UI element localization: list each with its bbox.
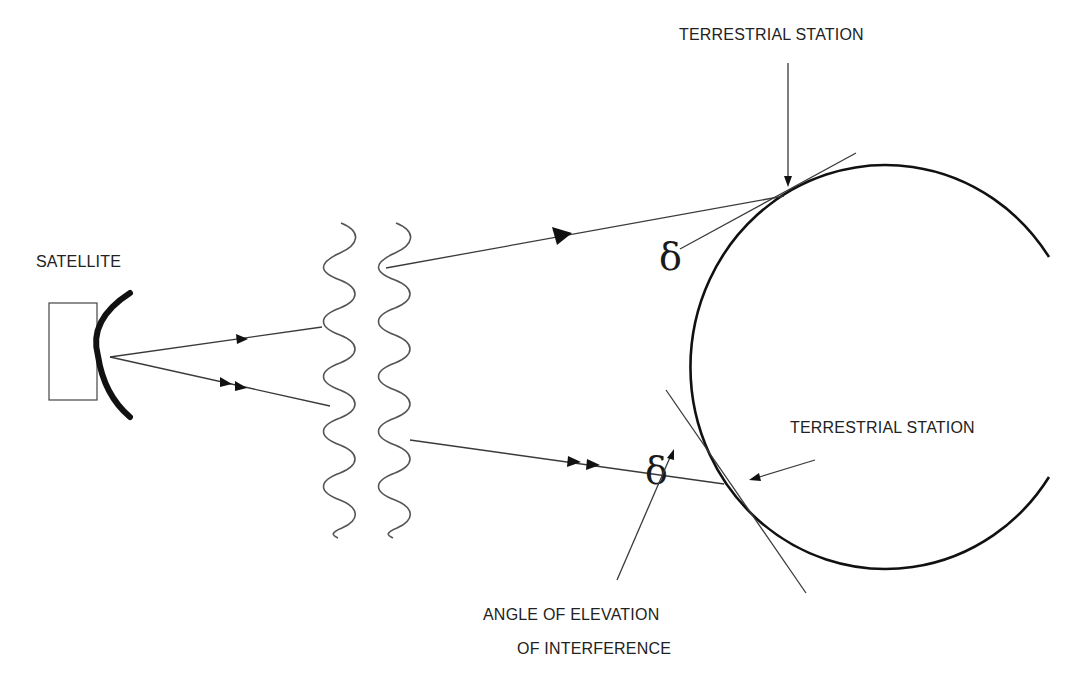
ray-arrow-double-icon	[567, 456, 581, 467]
ray-arrow-double-icon	[586, 459, 600, 470]
interference-waves	[324, 223, 411, 538]
beam-arrow-double-icon	[220, 377, 232, 387]
beam-arrow-single-icon	[236, 334, 248, 344]
elevation-label-line1: ANGLE OF ELEVATION	[483, 606, 659, 623]
interference-diagram: SATELLITE TERRESTRIAL STATION δ	[0, 0, 1092, 693]
top-station-pointer	[784, 63, 792, 187]
elevation-label-line2: OF INTERFERENCE	[517, 640, 671, 657]
bottom-station-label: TERRESTRIAL STATION	[790, 419, 975, 436]
angle-delta-top: δ	[659, 235, 682, 279]
upper-beam	[110, 327, 322, 357]
wave-left	[324, 223, 356, 538]
ray-arrow-icon	[552, 227, 572, 245]
upper-tangent-line	[680, 153, 856, 249]
satellite-label: SATELLITE	[36, 253, 121, 270]
lower-interference-path	[410, 390, 806, 593]
satellite-body	[49, 303, 97, 400]
bottom-station-pointer	[749, 460, 815, 481]
arrow-left-icon	[749, 473, 761, 481]
wave-right	[379, 223, 411, 538]
earth-circle	[690, 165, 1049, 569]
arrow-down-icon	[784, 176, 792, 187]
arrow-up-icon	[667, 449, 674, 460]
beam-arrow-double-icon	[235, 381, 247, 391]
satellite-beams	[110, 327, 330, 406]
top-station-label: TERRESTRIAL STATION	[679, 26, 864, 43]
upper-interference-path	[386, 153, 856, 268]
lower-tangent-line	[666, 390, 806, 593]
